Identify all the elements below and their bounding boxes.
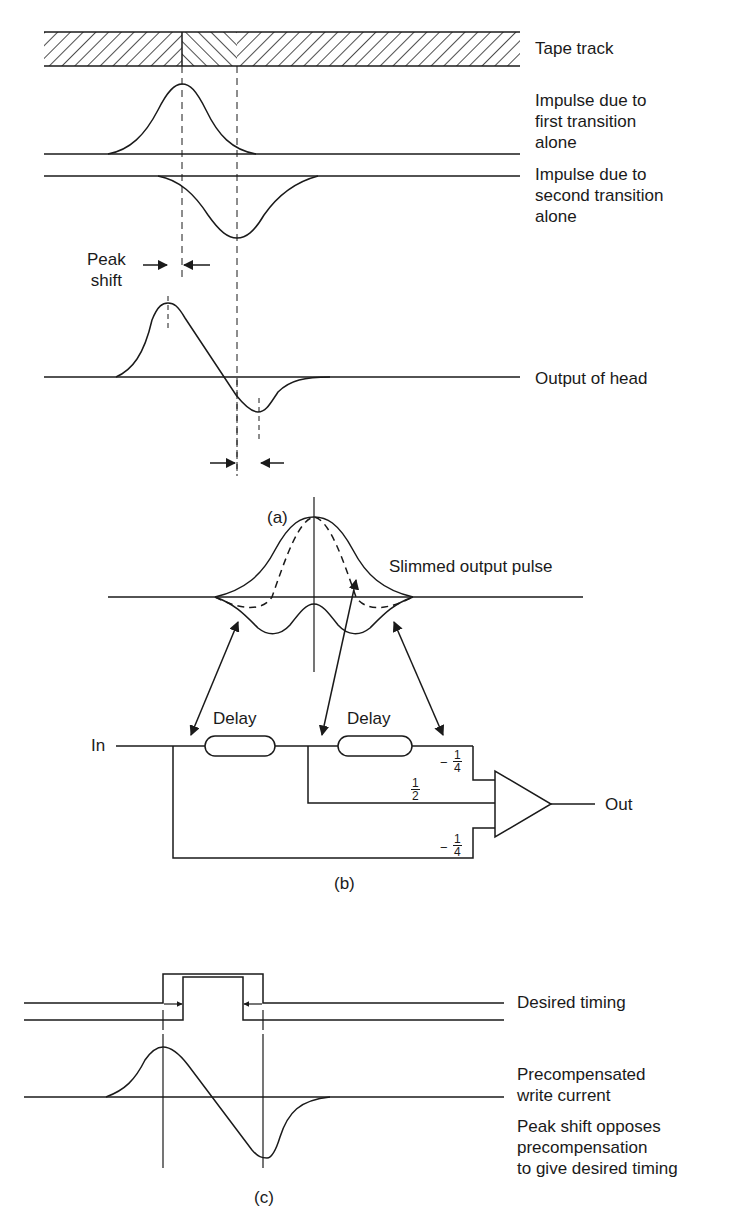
label-delay-1: Delay bbox=[213, 708, 256, 729]
precompensated-waveform bbox=[24, 977, 504, 1020]
output-of-head-curve bbox=[116, 303, 330, 412]
label-slimmed-output-pulse: Slimmed output pulse bbox=[389, 556, 552, 577]
label-peak-shift-opposes: Peak shift opposes precompensation to gi… bbox=[517, 1116, 678, 1179]
caption-a: (a) bbox=[267, 508, 288, 528]
peak-shift-output-curve bbox=[106, 1047, 330, 1158]
label-output-of-head: Output of head bbox=[535, 368, 647, 389]
label-peak-shift: Peak shift bbox=[87, 249, 126, 291]
summing-amplifier bbox=[495, 771, 551, 837]
panel-b bbox=[108, 497, 595, 858]
caption-c: (c) bbox=[254, 1188, 274, 1208]
label-impulse-second: Impulse due to second transition alone bbox=[535, 164, 664, 227]
coef-middle: 1 2 bbox=[411, 777, 420, 802]
label-precompensated: Precompensated write current bbox=[517, 1064, 646, 1106]
coef-top: 1 4 bbox=[453, 749, 462, 774]
label-in: In bbox=[91, 735, 105, 756]
tap-arrow-right bbox=[394, 622, 443, 735]
caption-b: (b) bbox=[334, 874, 355, 894]
desired-timing-waveform bbox=[24, 974, 504, 1003]
tape-track bbox=[44, 32, 520, 66]
delay-box-2 bbox=[338, 736, 412, 756]
coef-bottom-sign: − bbox=[440, 840, 448, 855]
panel-c bbox=[24, 974, 504, 1168]
label-impulse-first: Impulse due to first transition alone bbox=[535, 90, 647, 153]
coef-bottom: 1 4 bbox=[453, 833, 462, 858]
label-desired-timing: Desired timing bbox=[517, 992, 626, 1013]
delay-box-1 bbox=[205, 736, 275, 756]
label-out: Out bbox=[605, 794, 632, 815]
coef-top-sign: − bbox=[440, 755, 448, 770]
label-delay-2: Delay bbox=[347, 708, 390, 729]
label-tape-track: Tape track bbox=[535, 38, 613, 59]
